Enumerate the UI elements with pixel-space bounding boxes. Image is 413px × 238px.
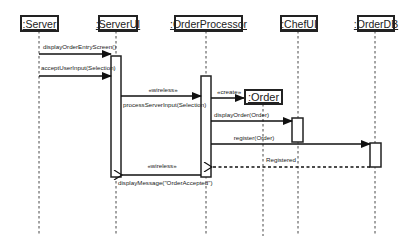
participant-orderdb: :OrderDB bbox=[357, 15, 395, 32]
label-register: register(Order) bbox=[234, 134, 275, 141]
object-label: :Order bbox=[248, 91, 279, 103]
label-displayOrderEntryScreen: displayOrderEntryScreen() bbox=[43, 43, 116, 50]
participant-orderprocessor: :OrderProcessor bbox=[174, 15, 243, 32]
participant-label: :Server bbox=[23, 18, 57, 30]
label-acceptUserInput: acceptUserInput(Selection) bbox=[41, 64, 116, 71]
stereotype-wireless-1: «wireless» bbox=[148, 86, 177, 93]
diagram-lines bbox=[0, 0, 413, 238]
label-displayOrder: displayOrder(Order) bbox=[214, 111, 269, 118]
activation-orderdb bbox=[370, 143, 381, 167]
activation-chefui bbox=[292, 118, 303, 142]
label-displayMessage: displayMessage("OrderAccepted") bbox=[118, 179, 213, 186]
activation-orderprocessor bbox=[201, 76, 211, 177]
stereotype-create: «create» bbox=[217, 88, 241, 95]
participant-label: :ChefUI bbox=[281, 18, 317, 30]
activation-serverui bbox=[111, 56, 121, 177]
participant-label: :OrderDB bbox=[354, 18, 398, 30]
participant-serverui: :ServerUI bbox=[98, 15, 138, 32]
created-object-order: :Order bbox=[244, 89, 283, 105]
participant-chefui: :ChefUI bbox=[280, 15, 318, 32]
participant-label: :OrderProcessor bbox=[170, 18, 247, 30]
stereotype-wireless-2: «wireless» bbox=[147, 162, 176, 169]
participant-label: :ServerUI bbox=[96, 18, 140, 30]
label-registered: Registered bbox=[266, 156, 296, 163]
sequence-diagram: :Server :ServerUI :OrderProcessor :ChefU… bbox=[0, 0, 413, 238]
participant-server: :Server bbox=[20, 15, 59, 32]
label-processServerInput: processServerInput(Selection) bbox=[123, 101, 206, 108]
